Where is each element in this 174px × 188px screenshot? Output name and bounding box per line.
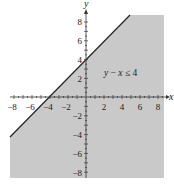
svg-text:−6: −6: [72, 149, 82, 159]
svg-text:4: 4: [78, 55, 83, 65]
svg-text:6: 6: [138, 102, 143, 112]
y-axis-label: y: [83, 0, 89, 9]
svg-text:2: 2: [78, 74, 83, 84]
svg-text:−4: −4: [72, 130, 82, 140]
svg-text:4: 4: [120, 102, 125, 112]
y-axis-arrow-icon: [84, 9, 88, 14]
svg-text:8: 8: [156, 102, 161, 112]
svg-text:−2: −2: [61, 102, 71, 112]
svg-text:−2: −2: [72, 111, 82, 121]
svg-text:−8: −8: [7, 102, 17, 112]
inequality-graph: −8 −6 −4 −2 2 4 6 8 8 6 4 2 −2 −4 −6 −8 …: [0, 0, 174, 188]
x-axis-label: x: [168, 91, 174, 102]
svg-text:−8: −8: [72, 168, 82, 178]
svg-text:−4: −4: [43, 102, 53, 112]
svg-text:−6: −6: [25, 102, 35, 112]
svg-text:2: 2: [102, 102, 107, 112]
inequality-label: y − x ≤ 4: [103, 68, 138, 78]
svg-text:6: 6: [78, 36, 83, 46]
svg-text:8: 8: [78, 17, 83, 27]
